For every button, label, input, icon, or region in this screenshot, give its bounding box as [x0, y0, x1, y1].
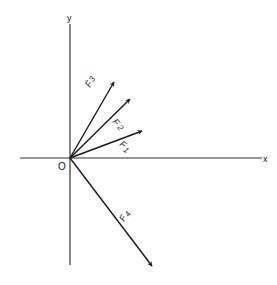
axes: x y O: [20, 13, 268, 265]
vector-f3: F3 →: [70, 73, 114, 158]
x-axis-label: x: [263, 154, 268, 164]
vector-f1-arrow: [70, 131, 142, 158]
vector-f4-arrow: [70, 158, 152, 266]
vector-f3-arrow: [70, 82, 114, 158]
force-vector-diagram: x y O F3 → F2 F1 F4: [0, 0, 277, 285]
y-axis-label: y: [67, 13, 72, 23]
vector-f1: F1: [70, 131, 142, 158]
origin-label: O: [58, 161, 66, 172]
vector-f1-label: F1: [116, 139, 132, 155]
vector-f4: F4: [70, 158, 152, 266]
vector-f2-label: F2: [110, 117, 126, 133]
vector-f4-label: F4: [117, 208, 133, 224]
